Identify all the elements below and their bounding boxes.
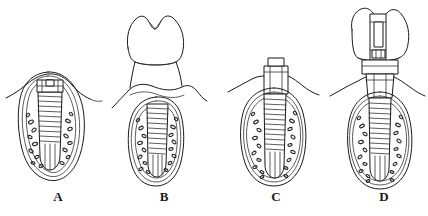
retaining-screw [372,22,385,58]
panel-label-b: B [154,190,174,204]
panel-label-d: D [374,190,394,204]
threaded-implant-body [264,94,286,178]
figure-caption-partial [0,208,428,216]
threaded-implant-body [38,92,62,170]
threaded-implant-body [369,98,391,181]
panel-label-a: A [48,190,68,204]
cover-screw [37,80,63,92]
threaded-implant-body [147,104,168,177]
figure-canvas [0,0,428,216]
panel-label-c: C [266,190,286,204]
abutment-cap [268,58,284,66]
implant-stages-figure: A B C D [0,0,428,216]
